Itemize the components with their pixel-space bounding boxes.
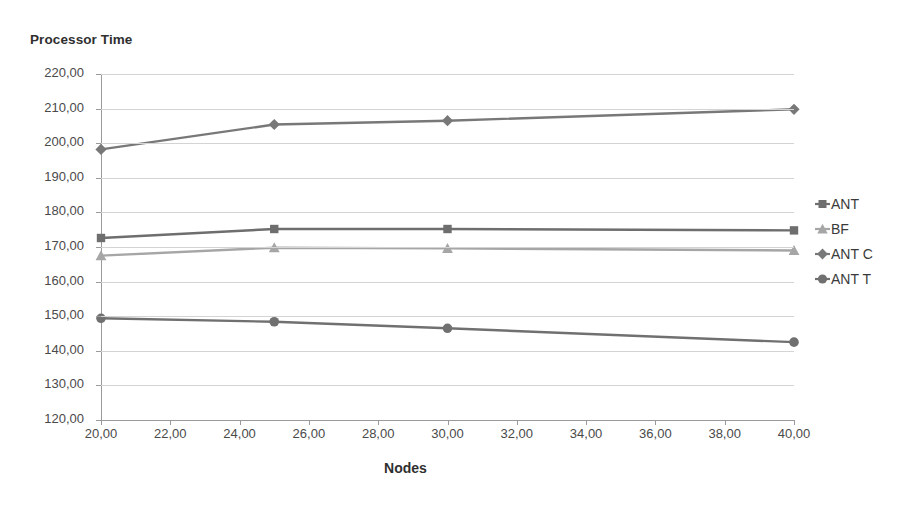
data-point-marker xyxy=(790,226,798,234)
x-axis-label: 34,00 xyxy=(570,426,603,441)
y-axis-label: 170,00 xyxy=(44,238,84,253)
y-axis-tick xyxy=(96,282,101,283)
y-axis-labels: 220,00210,00200,00190,00180,00170,00160,… xyxy=(0,74,94,420)
y-axis-label: 180,00 xyxy=(44,203,84,218)
data-point-marker xyxy=(789,337,799,347)
y-axis-tick xyxy=(96,247,101,248)
y-axis-label: 150,00 xyxy=(44,307,84,322)
y-axis-label: 140,00 xyxy=(44,342,84,357)
gridline-y xyxy=(101,109,794,110)
x-axis-label: 30,00 xyxy=(431,426,464,441)
plot-area xyxy=(101,74,794,420)
x-axis-title-label: Nodes xyxy=(384,460,427,476)
x-axis-label: 38,00 xyxy=(708,426,741,441)
x-axis-tick xyxy=(586,420,587,425)
gridline-y xyxy=(101,74,794,75)
gridline-y xyxy=(101,212,794,213)
x-axis-label: 20,00 xyxy=(85,426,118,441)
legend-label: BF xyxy=(831,221,849,237)
y-axis-tick xyxy=(96,385,101,386)
gridline-y xyxy=(101,385,794,386)
legend-label: ANT C xyxy=(831,246,873,262)
y-axis-tick xyxy=(96,316,101,317)
y-axis-tick xyxy=(96,74,101,75)
y-axis-tick xyxy=(96,178,101,179)
data-point-marker xyxy=(96,313,106,323)
series-bf xyxy=(96,242,800,260)
y-axis-label: 200,00 xyxy=(44,134,84,149)
series-ant-c xyxy=(95,104,799,155)
data-point-marker xyxy=(442,115,453,126)
data-point-marker xyxy=(817,249,828,260)
legend-item-ant-c[interactable]: ANT C xyxy=(815,246,873,262)
y-axis-tick xyxy=(96,351,101,352)
x-axis-tick xyxy=(170,420,171,425)
x-axis-tick xyxy=(517,420,518,425)
x-axis-tick xyxy=(101,420,102,425)
x-axis-tick xyxy=(794,420,795,425)
y-axis-label: 130,00 xyxy=(44,376,84,391)
data-point-marker xyxy=(443,225,451,233)
legend-label: ANT T xyxy=(831,271,871,287)
y-axis-tick xyxy=(96,109,101,110)
x-axis-tick xyxy=(725,420,726,425)
circle-marker-icon xyxy=(815,272,830,286)
x-axis-label: 26,00 xyxy=(293,426,326,441)
data-point-marker xyxy=(97,234,105,242)
gridline-y xyxy=(101,316,794,317)
data-point-marker xyxy=(443,324,453,334)
series-ant xyxy=(97,225,798,242)
square-marker-icon xyxy=(815,197,830,211)
x-axis-title: Nodes xyxy=(0,460,906,476)
chart-legend: ANTBFANT CANT T xyxy=(815,196,873,287)
chart-title: Processor Time xyxy=(30,32,132,47)
x-axis-tick xyxy=(309,420,310,425)
data-point-marker xyxy=(270,225,278,233)
gridline-y xyxy=(101,143,794,144)
x-axis-label: 22,00 xyxy=(154,426,187,441)
y-axis-label: 220,00 xyxy=(44,65,84,80)
gridline-y xyxy=(101,282,794,283)
chart-container: Processor Time 220,00210,00200,00190,001… xyxy=(0,0,906,510)
x-axis-tick xyxy=(655,420,656,425)
gridline-y xyxy=(101,178,794,179)
x-axis-tick xyxy=(378,420,379,425)
data-point-marker xyxy=(819,200,827,208)
gridline-y xyxy=(101,247,794,248)
y-axis-label: 210,00 xyxy=(44,100,84,115)
gridline-y xyxy=(101,351,794,352)
legend-item-bf[interactable]: BF xyxy=(815,221,873,237)
y-axis-label: 120,00 xyxy=(44,411,84,426)
data-point-marker xyxy=(95,144,106,155)
x-axis-tick xyxy=(448,420,449,425)
legend-item-ant-t[interactable]: ANT T xyxy=(815,271,873,287)
x-axis-label: 24,00 xyxy=(223,426,256,441)
y-axis-tick xyxy=(96,212,101,213)
x-axis-label: 36,00 xyxy=(639,426,672,441)
x-axis-label: 28,00 xyxy=(362,426,395,441)
series-ant-t xyxy=(96,313,799,346)
y-axis-label: 160,00 xyxy=(44,273,84,288)
data-point-marker xyxy=(269,317,279,327)
legend-label: ANT xyxy=(831,196,859,212)
triangle-marker-icon xyxy=(815,222,830,236)
x-axis-label: 32,00 xyxy=(501,426,534,441)
legend-item-ant[interactable]: ANT xyxy=(815,196,873,212)
y-axis-tick xyxy=(96,143,101,144)
x-axis-label: 40,00 xyxy=(778,426,811,441)
y-axis-label: 190,00 xyxy=(44,169,84,184)
data-point-marker xyxy=(269,119,280,130)
x-axis-tick xyxy=(240,420,241,425)
data-point-marker xyxy=(818,274,827,283)
diamond-marker-icon xyxy=(815,247,830,261)
